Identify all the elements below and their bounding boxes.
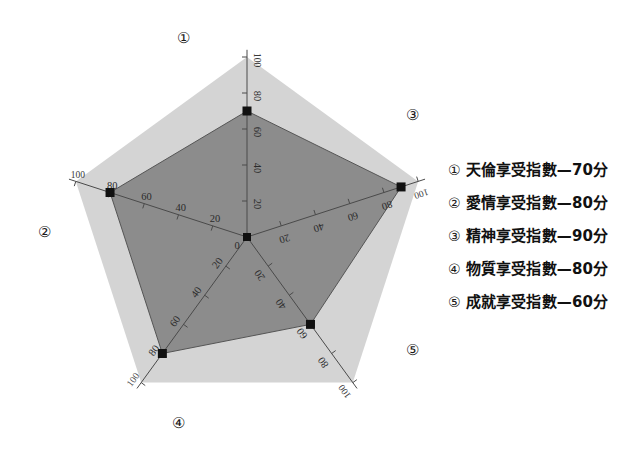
axis-tick-label: 100 bbox=[336, 383, 353, 401]
axis-index-label: ③ bbox=[406, 107, 419, 123]
legend-item-label: 天倫享受指數—70分 bbox=[466, 158, 609, 179]
radar-chart-area: 1008060402010080604020100806040201008060… bbox=[0, 0, 440, 457]
axis-tick bbox=[74, 181, 76, 186]
axis-tick-label: 60 bbox=[252, 127, 263, 138]
axis-tick-label: 80 bbox=[252, 91, 263, 102]
legend-marker-icon: ① bbox=[448, 163, 461, 177]
axis-tick-label: 40 bbox=[175, 202, 186, 213]
origin-tick-label: 0 bbox=[234, 240, 239, 251]
axis-tick-label: 20 bbox=[210, 213, 221, 224]
axis-index-label: ⑤ bbox=[406, 342, 419, 358]
axis-tick-label: 100 bbox=[252, 53, 262, 68]
axis-tick bbox=[141, 383, 145, 386]
legend-marker-icon: ④ bbox=[448, 262, 461, 276]
list-item: ⑤ 成就享受指數—60分 bbox=[448, 290, 638, 311]
legend-marker-icon: ② bbox=[448, 196, 461, 210]
legend-item-label: 精神享受指數—90分 bbox=[466, 224, 609, 245]
list-item: ③ 精神享受指數—90分 bbox=[448, 224, 638, 245]
data-point-marker bbox=[306, 320, 315, 329]
axis-tick-label: 60 bbox=[141, 191, 152, 202]
legend-marker-icon: ⑤ bbox=[448, 295, 461, 309]
axis-tick-label: 20 bbox=[252, 199, 263, 210]
data-point-marker bbox=[158, 349, 167, 358]
axis-tick-label: 100 bbox=[71, 170, 86, 180]
axis-index-label: ① bbox=[177, 30, 190, 46]
legend-item-label: 愛情享受指數—80分 bbox=[466, 191, 609, 212]
radar-chart-svg: 1008060402010080604020100806040201008060… bbox=[0, 0, 440, 457]
data-point-marker bbox=[243, 107, 252, 116]
legend-item-label: 物質享受指數—80分 bbox=[466, 257, 609, 278]
axis-index-label: ④ bbox=[172, 415, 185, 431]
legend-marker-icon: ③ bbox=[448, 229, 461, 243]
list-item: ④ 物質享受指數—80分 bbox=[448, 257, 638, 278]
legend: ① 天倫享受指數—70分 ② 愛情享受指數—80分 ③ 精神享受指數—90分 ④… bbox=[448, 158, 638, 323]
axis-index-label: ② bbox=[38, 224, 51, 240]
list-item: ① 天倫享受指數—70分 bbox=[448, 158, 638, 179]
data-point-marker bbox=[106, 188, 115, 197]
legend-item-label: 成就享受指數—60分 bbox=[466, 290, 609, 311]
origin-marker bbox=[243, 233, 251, 241]
list-item: ② 愛情享受指數—80分 bbox=[448, 191, 638, 212]
data-point-marker bbox=[397, 182, 406, 191]
axis-tick-label: 40 bbox=[252, 163, 263, 174]
